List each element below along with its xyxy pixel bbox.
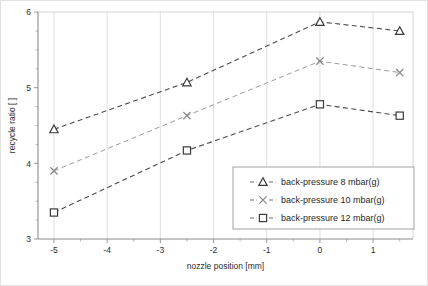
y-tick-label-0: 3: [26, 234, 31, 244]
data-point-2-3: [396, 112, 403, 119]
data-point-2-1: [183, 147, 190, 154]
x-axis-title: nozzle position [mm]: [187, 261, 264, 271]
series-line-1: [54, 61, 400, 171]
x-tick-label-4: -1: [263, 245, 271, 255]
series-triangle: [50, 18, 404, 133]
data-point-0-1: [183, 78, 191, 86]
data-point-2-2: [316, 101, 323, 108]
x-tick-label-5: 0: [318, 245, 323, 255]
x-tick-label-0: -5: [50, 245, 58, 255]
legend-marker-square-icon: [259, 214, 266, 221]
legend-label-1: back-pressure 10 mbar(g): [281, 195, 385, 205]
x-tick-label-2: -3: [157, 245, 165, 255]
data-point-0-2: [316, 18, 324, 26]
y-tick-label-3: 6: [26, 7, 31, 17]
x-tick-label-6: 1: [371, 245, 376, 255]
y-tick-label-1: 4: [26, 159, 31, 169]
data-point-1-1: [183, 112, 190, 119]
legend-label-2: back-pressure 12 mbar(g): [281, 213, 385, 223]
y-tick-label-2: 5: [26, 83, 31, 93]
series-x: [50, 58, 403, 175]
y-axis-title: recycle ratio [ ]: [7, 98, 17, 153]
x-tick-label-3: -2: [210, 245, 218, 255]
data-point-0-0: [50, 125, 58, 133]
recycle-ratio-line-chart: 3456-5-4-3-2-101 nozzle position [mm]rec…: [1, 1, 428, 286]
series-line-0: [54, 22, 400, 129]
axis-titles: nozzle position [mm]recycle ratio [ ]: [7, 98, 264, 271]
chart-legend[interactable]: back-pressure 8 mbar(g)back-pressure 10 …: [233, 167, 414, 229]
x-tick-label-1: -4: [103, 245, 111, 255]
data-point-2-0: [50, 209, 57, 216]
chart-frame: 3456-5-4-3-2-101 nozzle position [mm]rec…: [0, 0, 428, 286]
legend-label-0: back-pressure 8 mbar(g): [281, 177, 380, 187]
